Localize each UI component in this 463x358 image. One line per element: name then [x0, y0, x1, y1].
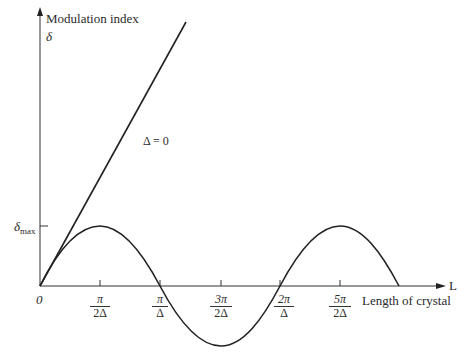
tick-label-3pi-over-2delta: 3π2Δ [210, 293, 232, 319]
delta-max-subscript: max [20, 226, 36, 236]
tick-label-pi-over-2delta: π2Δ [90, 293, 110, 319]
origin-label: 0 [36, 293, 43, 306]
x-axis-label: Length of crystal [362, 294, 451, 307]
y-axis-arrow-icon [37, 7, 43, 16]
x-axis-arrow-icon [436, 283, 446, 289]
line-label: Δ = 0 [143, 135, 169, 147]
tick-label-pi-over-delta: πΔ [152, 293, 168, 319]
y-axis-symbol: δ [46, 30, 52, 43]
tick-label-2pi-over-delta: 2πΔ [274, 293, 294, 319]
x-ticks [100, 280, 340, 286]
tick-label-5pi-over-2delta: 5π2Δ [329, 293, 351, 319]
x-axis-symbol: L [449, 279, 457, 292]
y-axis-label: Modulation index [46, 12, 139, 25]
delta-zero-line [40, 22, 186, 286]
delta-max-label: δmax [14, 220, 36, 236]
